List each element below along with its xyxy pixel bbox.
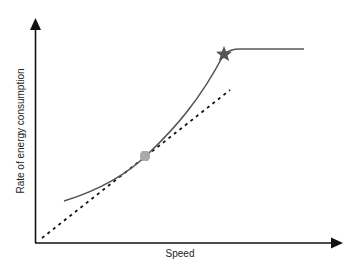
star-icon: [216, 46, 232, 61]
x-axis-label: Speed: [166, 248, 195, 259]
y-axis-label: Rate of energy consumption: [15, 68, 26, 193]
axes: [30, 18, 343, 249]
tangent-point-marker: [140, 151, 150, 161]
energy-consumption-curve: [64, 49, 304, 201]
energy-speed-diagram: Speed Rate of energy consumption: [0, 0, 352, 275]
y-axis-arrow-icon: [30, 18, 41, 30]
x-axis-arrow-icon: [331, 238, 343, 249]
